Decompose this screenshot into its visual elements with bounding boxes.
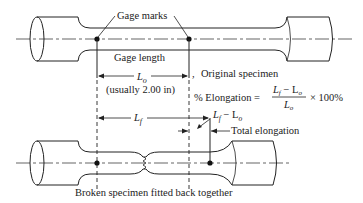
svg-text:× 100%: × 100% xyxy=(310,92,343,103)
total-elongation-dimension: Lf − Lo Total elongation xyxy=(178,109,300,136)
original-specimen xyxy=(16,17,355,61)
caption: Broken specimen fitted back together xyxy=(75,187,233,198)
original-specimen-label: Original specimen xyxy=(201,68,279,79)
tensile-elongation-diagram: Gage marks Gage length Lo (usually 2.00 … xyxy=(0,0,363,203)
svg-text:Lf − Lo: Lf − Lo xyxy=(212,109,243,123)
broken-specimen xyxy=(16,141,290,185)
svg-text:Lo: Lo xyxy=(283,99,294,112)
total-elongation-label: Total elongation xyxy=(231,125,300,136)
lo-dimension: Lo (usually 2.00 in) xyxy=(98,71,188,96)
svg-text:Lo: Lo xyxy=(136,71,147,85)
svg-text:Lf: Lf xyxy=(133,112,144,126)
gage-length-label: Gage length xyxy=(114,52,166,63)
elongation-formula: % Elongation = Lf − Lo Lo × 100% xyxy=(194,84,343,112)
svg-text:Lf − Lo: Lf − Lo xyxy=(272,84,302,97)
svg-text:% Elongation =: % Elongation = xyxy=(194,92,260,103)
gage-marks-label: Gage marks xyxy=(117,10,167,21)
lf-dimension: Lf xyxy=(98,112,210,165)
lo-note: (usually 2.00 in) xyxy=(106,84,176,96)
svg-text:,: , xyxy=(192,68,195,79)
